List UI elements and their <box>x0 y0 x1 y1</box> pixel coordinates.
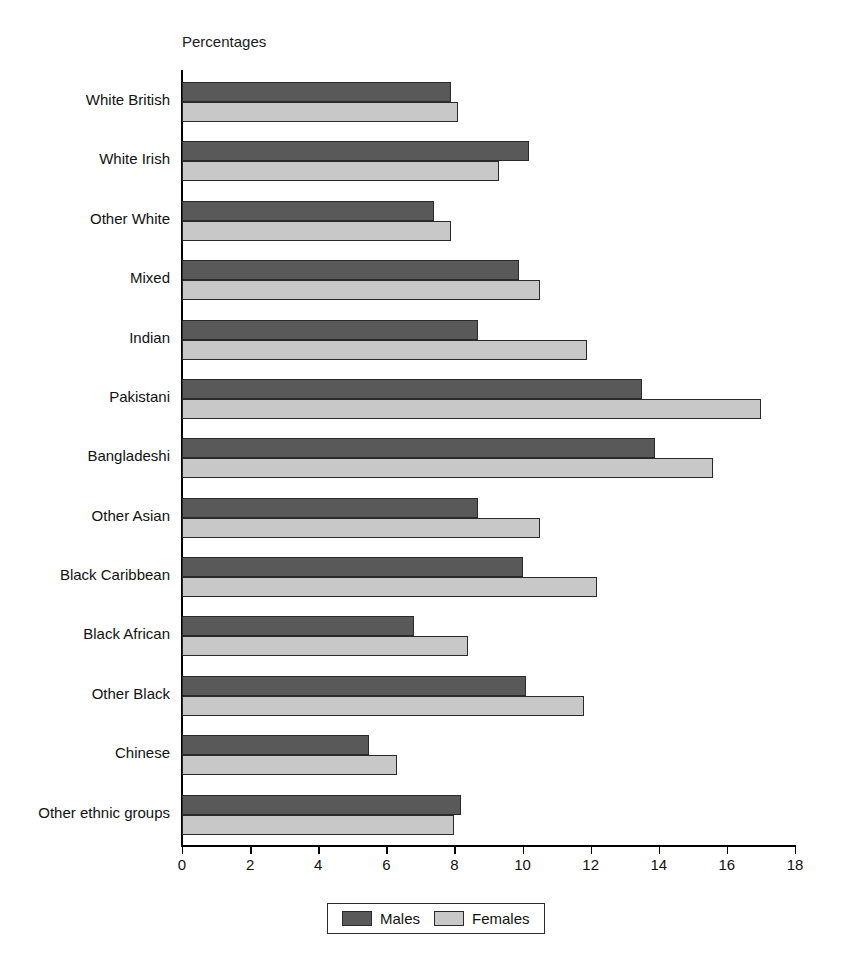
axis-title: Percentages <box>182 33 266 51</box>
bar-females-other-ethnic-groups <box>182 815 454 835</box>
category-label-bangladeshi: Bangladeshi <box>0 447 170 464</box>
bar-group: Chinese <box>182 735 795 794</box>
x-tick-0 <box>182 846 183 854</box>
x-tick-16 <box>727 846 728 854</box>
category-label-chinese: Chinese <box>0 744 170 761</box>
category-label-black-caribbean: Black Caribbean <box>0 566 170 583</box>
x-tick-8 <box>454 846 455 854</box>
category-label-white-irish: White Irish <box>0 150 170 167</box>
x-tick-10 <box>523 846 524 854</box>
chart-legend: MalesFemales <box>327 903 545 934</box>
bar-group: Mixed <box>182 260 795 319</box>
x-tick-label-16: 16 <box>719 856 736 874</box>
bar-group: Black African <box>182 616 795 675</box>
bar-females-white-irish <box>182 161 499 181</box>
x-tick-14 <box>659 846 660 854</box>
category-label-black-african: Black African <box>0 625 170 642</box>
bar-males-bangladeshi <box>182 438 655 458</box>
bar-group: Other Asian <box>182 498 795 557</box>
x-tick-label-14: 14 <box>650 856 667 874</box>
bar-group: Bangladeshi <box>182 438 795 497</box>
bar-males-other-asian <box>182 498 478 518</box>
bar-females-other-asian <box>182 518 540 538</box>
bar-males-white-british <box>182 82 451 102</box>
category-label-indian: Indian <box>0 329 170 346</box>
bar-males-chinese <box>182 735 369 755</box>
bar-chart: Percentages White BritishWhite IrishOthe… <box>0 0 842 977</box>
bar-females-pakistani <box>182 399 761 419</box>
bar-females-bangladeshi <box>182 458 713 478</box>
x-tick-6 <box>386 846 387 854</box>
bar-females-black-caribbean <box>182 577 597 597</box>
bar-males-black-african <box>182 616 414 636</box>
legend-swatch-females <box>434 911 464 926</box>
x-tick-label-10: 10 <box>514 856 531 874</box>
bar-males-mixed <box>182 260 519 280</box>
plot-area: White BritishWhite IrishOther WhiteMixed… <box>182 72 795 844</box>
bar-females-black-african <box>182 636 468 656</box>
legend-label-females: Females <box>472 910 530 927</box>
x-tick-2 <box>250 846 251 854</box>
bar-males-other-ethnic-groups <box>182 795 461 815</box>
x-tick-12 <box>591 846 592 854</box>
bar-group: White British <box>182 82 795 141</box>
x-tick-label-4: 4 <box>314 856 322 874</box>
category-label-other-asian: Other Asian <box>0 507 170 524</box>
bar-females-other-white <box>182 221 451 241</box>
x-tick-label-12: 12 <box>582 856 599 874</box>
bar-group: White Irish <box>182 141 795 200</box>
bar-females-mixed <box>182 280 540 300</box>
x-tick-label-8: 8 <box>450 856 458 874</box>
bar-males-black-caribbean <box>182 557 523 577</box>
legend-entry-females: Females <box>434 910 530 927</box>
x-tick-18 <box>795 846 796 854</box>
bar-group: Other White <box>182 201 795 260</box>
bar-group: Indian <box>182 320 795 379</box>
legend-swatch-males <box>342 911 372 926</box>
bar-females-white-british <box>182 102 458 122</box>
x-tick-label-6: 6 <box>382 856 390 874</box>
bar-males-indian <box>182 320 478 340</box>
category-label-pakistani: Pakistani <box>0 388 170 405</box>
x-tick-label-0: 0 <box>178 856 186 874</box>
bar-group: Other Black <box>182 676 795 735</box>
bar-males-white-irish <box>182 141 529 161</box>
bar-group: Black Caribbean <box>182 557 795 616</box>
bar-group: Other ethnic groups <box>182 795 795 854</box>
bar-males-pakistani <box>182 379 642 399</box>
x-tick-4 <box>318 846 319 854</box>
legend-entry-males: Males <box>342 910 420 927</box>
bar-group: Pakistani <box>182 379 795 438</box>
category-label-white-british: White British <box>0 91 170 108</box>
category-label-mixed: Mixed <box>0 269 170 286</box>
x-tick-label-18: 18 <box>787 856 804 874</box>
bar-females-indian <box>182 340 587 360</box>
x-tick-label-2: 2 <box>246 856 254 874</box>
bar-females-other-black <box>182 696 584 716</box>
legend-label-males: Males <box>380 910 420 927</box>
bar-females-chinese <box>182 755 397 775</box>
category-label-other-black: Other Black <box>0 685 170 702</box>
bar-males-other-black <box>182 676 526 696</box>
category-label-other-white: Other White <box>0 210 170 227</box>
bar-males-other-white <box>182 201 434 221</box>
category-label-other-ethnic-groups: Other ethnic groups <box>0 804 170 821</box>
